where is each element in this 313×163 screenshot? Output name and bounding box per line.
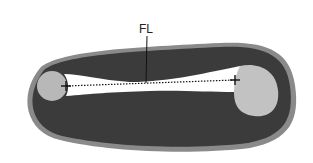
- fl-label: FL: [139, 22, 153, 36]
- femur-length-diagram: FL: [0, 0, 313, 163]
